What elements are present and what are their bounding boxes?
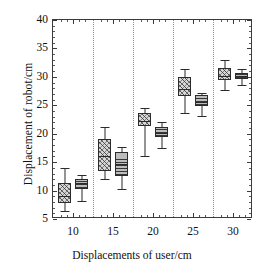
y-tick-label-20: 20 — [0, 128, 53, 140]
median-line — [76, 183, 87, 184]
lower-whisker — [81, 189, 82, 201]
median-line — [99, 156, 110, 157]
lower-cap — [237, 85, 246, 86]
x-tick-label-15: 15 — [93, 217, 133, 238]
median-line — [116, 164, 127, 165]
y-tick-label-10: 10 — [0, 185, 53, 197]
lower-whisker — [184, 96, 185, 113]
lower-cap — [180, 113, 189, 114]
upper-whisker — [184, 69, 185, 77]
upper-cap — [140, 108, 149, 109]
lower-cap — [220, 90, 229, 91]
y-tick-label-40: 40 — [0, 14, 53, 26]
box-series-b-cat-20 — [155, 20, 168, 219]
box-series-b-cat-15 — [115, 20, 128, 219]
y-tick-label-15: 15 — [0, 156, 53, 168]
lower-whisker — [144, 126, 145, 156]
lower-cap — [60, 211, 69, 212]
box-body — [98, 139, 111, 170]
lower-cap — [197, 116, 206, 117]
lower-whisker — [161, 137, 162, 148]
median-line — [219, 76, 230, 77]
median-line — [59, 196, 70, 197]
upper-cap — [60, 168, 69, 169]
lower-whisker — [121, 176, 122, 189]
y-axis-label: Displacement of robot/cm — [22, 44, 34, 204]
box-series-b-cat-10 — [75, 20, 88, 219]
y-tick-label-35: 35 — [0, 43, 53, 55]
upper-whisker — [104, 127, 105, 140]
box-plot-figure: Displacement of robot/cm 510152025303540… — [0, 0, 264, 272]
upper-cap — [220, 60, 229, 61]
lower-cap — [140, 156, 149, 157]
box-series-b-cat-25 — [195, 20, 208, 219]
lower-whisker — [64, 203, 65, 211]
box-body — [155, 127, 168, 136]
x-axis-label: Displacements of user/cm — [0, 249, 264, 261]
upper-cap — [77, 175, 86, 176]
upper-whisker — [64, 168, 65, 183]
box-series-a-cat-25 — [178, 20, 191, 219]
box-body — [75, 179, 88, 189]
box-series-a-cat-15 — [98, 20, 111, 219]
box-series-a-cat-30 — [218, 20, 231, 219]
upper-cap — [100, 127, 109, 128]
median-line — [156, 133, 167, 134]
box-body — [218, 68, 231, 81]
lower-whisker — [104, 171, 105, 179]
box-series-b-cat-30 — [235, 20, 248, 219]
box-body — [58, 183, 71, 203]
box-series-a-cat-10 — [58, 20, 71, 219]
lower-cap — [117, 189, 126, 190]
box-body — [195, 95, 208, 106]
y-tick-label-30: 30 — [0, 71, 53, 83]
box-body — [138, 113, 151, 127]
upper-cap — [157, 122, 166, 123]
median-line — [139, 121, 150, 122]
y-tick-label-25: 25 — [0, 100, 53, 112]
upper-cap — [197, 93, 206, 94]
plot-area: 510152025303540 1015202530 — [52, 19, 252, 218]
box-body — [178, 77, 191, 96]
median-line — [179, 89, 190, 90]
median-line — [236, 76, 247, 77]
upper-cap — [237, 69, 246, 70]
x-tick-label-30: 30 — [213, 217, 253, 238]
box-series-a-cat-20 — [138, 20, 151, 219]
box-series-layer — [53, 20, 251, 217]
upper-cap — [180, 69, 189, 70]
upper-cap — [117, 147, 126, 148]
lower-whisker — [201, 106, 202, 116]
median-line — [196, 102, 207, 103]
x-tick-label-10: 10 — [53, 217, 93, 238]
lower-cap — [100, 179, 109, 180]
x-tick-label-20: 20 — [133, 217, 173, 238]
lower-whisker — [224, 80, 225, 90]
x-tick-label-25: 25 — [173, 217, 213, 238]
lower-cap — [157, 148, 166, 149]
box-body — [115, 152, 128, 176]
y-tick-label-5: 5 — [0, 213, 53, 225]
box-body — [235, 73, 248, 79]
upper-whisker — [224, 60, 225, 67]
lower-cap — [77, 201, 86, 202]
